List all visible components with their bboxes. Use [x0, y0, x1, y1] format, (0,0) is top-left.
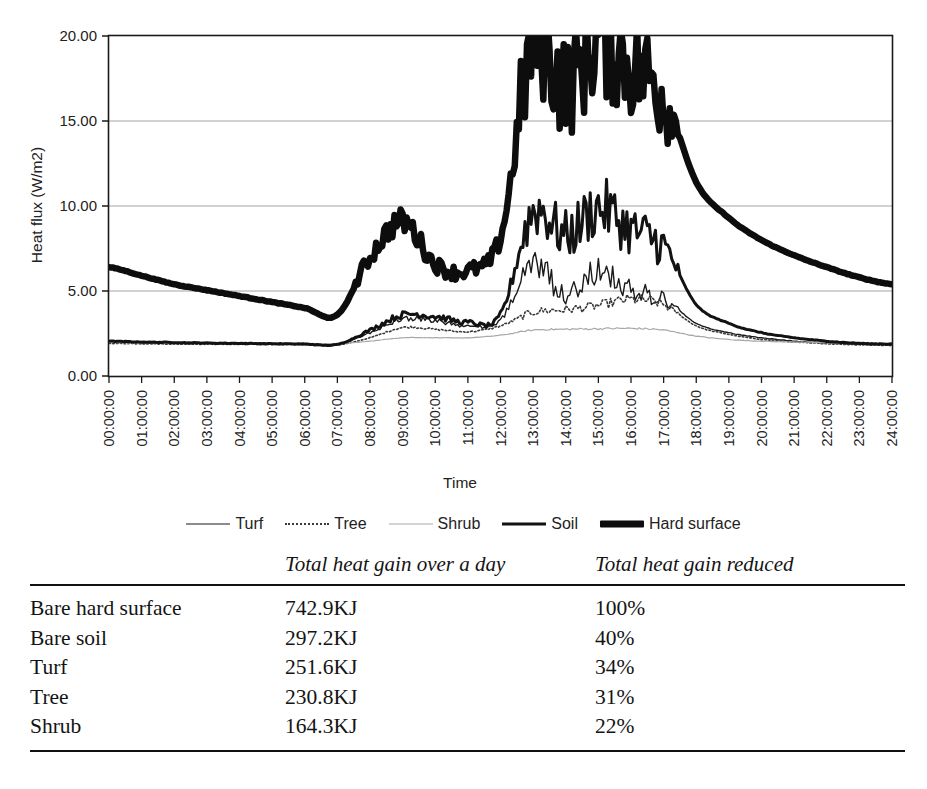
- x-tick-label: 14:00:00: [558, 390, 574, 446]
- table-row: Bare soil297.2KJ40%: [30, 624, 905, 654]
- x-tick-label: 13:00:00: [525, 390, 541, 446]
- table-body: Bare hard surface742.9KJ100%Bare soil297…: [30, 585, 905, 751]
- legend-item-hard-surface: Hard surface: [600, 515, 741, 533]
- x-tick-label: 00:00:00: [101, 390, 117, 446]
- x-tick-label: 17:00:00: [656, 390, 672, 446]
- x-tick-label: 16:00:00: [623, 390, 639, 446]
- legend-item-shrub: Shrub: [389, 515, 481, 533]
- legend-label-hard-surface: Hard surface: [649, 515, 741, 533]
- legend-line-shrub-icon: [389, 517, 433, 531]
- table-row: Shrub164.3KJ22%: [30, 712, 905, 751]
- cell-surface-name: Bare soil: [30, 624, 285, 654]
- cell-surface-name: Shrub: [30, 712, 285, 751]
- legend-label-shrub: Shrub: [438, 515, 481, 533]
- x-tick-label: 21:00:00: [786, 390, 802, 446]
- cell-total-heat-gain-reduced: 100%: [595, 585, 905, 624]
- cell-total-heat-gain-reduced: 34%: [595, 653, 905, 683]
- summary-table-wrapper: Total heat gain over a day Total heat ga…: [30, 552, 905, 752]
- x-tick-label: 19:00:00: [721, 390, 737, 446]
- table-header-total-heat-gain: Total heat gain over a day: [285, 552, 595, 585]
- x-tick-label: 10:00:00: [427, 390, 443, 446]
- table-header-row: Total heat gain over a day Total heat ga…: [30, 552, 905, 585]
- legend-line-soil-icon: [502, 517, 546, 531]
- y-tick-label: 10.00: [59, 197, 97, 214]
- x-tick-label: 04:00:00: [232, 390, 248, 446]
- x-tick-label: 01:00:00: [134, 390, 150, 446]
- heat-flux-line-chart: Heat flux (W/m2) 0.005.0010.0015.0020.00…: [0, 0, 927, 500]
- table-header-total-heat-gain-reduced: Total heat gain reduced: [595, 552, 905, 585]
- cell-total-heat-gain: 742.9KJ: [285, 585, 595, 624]
- legend-label-tree: Tree: [334, 515, 366, 533]
- cell-surface-name: Turf: [30, 653, 285, 683]
- y-tick-label: 15.00: [59, 112, 97, 129]
- x-tick-label: 11:00:00: [460, 390, 476, 445]
- grid-lines: [109, 121, 892, 291]
- x-tick-label: 24:00:00: [884, 390, 900, 446]
- series-line-soil: [109, 179, 892, 345]
- cell-total-heat-gain: 251.6KJ: [285, 653, 595, 683]
- x-tick-label: 22:00:00: [819, 390, 835, 446]
- legend-line-tree-icon: [285, 517, 329, 531]
- cell-total-heat-gain: 164.3KJ: [285, 712, 595, 751]
- chart-area: Heat flux (W/m2) 0.005.0010.0015.0020.00…: [0, 0, 927, 500]
- table-row: Tree230.8KJ31%: [30, 683, 905, 713]
- chart-legend: Turf Tree Shrub Soil Hard surface: [0, 505, 927, 543]
- cell-surface-name: Bare hard surface: [30, 585, 285, 624]
- series-line-tree: [109, 295, 892, 346]
- x-tick-label: 05:00:00: [264, 390, 280, 446]
- x-axis-title: Time: [443, 474, 477, 491]
- legend-line-hard-surface-icon: [600, 517, 644, 531]
- y-tick-label: 20.00: [59, 27, 97, 44]
- x-tick-label: 02:00:00: [166, 390, 182, 446]
- legend-item-soil: Soil: [502, 515, 578, 533]
- cell-total-heat-gain: 230.8KJ: [285, 683, 595, 713]
- x-tick-label: 18:00:00: [688, 390, 704, 446]
- legend-item-turf: Turf: [186, 515, 263, 533]
- series-line-hard-surface: [109, 0, 892, 318]
- legend-item-tree: Tree: [285, 515, 366, 533]
- cell-surface-name: Tree: [30, 683, 285, 713]
- x-tick-label: 09:00:00: [395, 390, 411, 446]
- cell-total-heat-gain-reduced: 40%: [595, 624, 905, 654]
- x-tick-label: 12:00:00: [493, 390, 509, 446]
- cell-total-heat-gain-reduced: 31%: [595, 683, 905, 713]
- legend-line-turf-icon: [186, 517, 230, 531]
- series-line-turf: [109, 253, 892, 346]
- legend-label-turf: Turf: [235, 515, 263, 533]
- x-tick-label: 07:00:00: [329, 390, 345, 446]
- heat-gain-table: Total heat gain over a day Total heat ga…: [30, 552, 905, 752]
- x-tick-label: 03:00:00: [199, 390, 215, 446]
- x-tick-label: 15:00:00: [590, 390, 606, 446]
- table-row: Turf251.6KJ34%: [30, 653, 905, 683]
- x-tick-label: 08:00:00: [362, 390, 378, 446]
- cell-total-heat-gain: 297.2KJ: [285, 624, 595, 654]
- data-series-group: [109, 0, 892, 346]
- x-axis-tick-labels: 00:00:0001:00:0002:00:0003:00:0004:00:00…: [101, 390, 900, 446]
- figure-heat-flux: Heat flux (W/m2) 0.005.0010.0015.0020.00…: [0, 0, 927, 789]
- y-axis-ticks: 0.005.0010.0015.0020.00: [59, 27, 109, 384]
- legend-label-soil: Soil: [551, 515, 578, 533]
- table-row: Bare hard surface742.9KJ100%: [30, 585, 905, 624]
- x-tick-label: 20:00:00: [754, 390, 770, 446]
- x-tick-label: 06:00:00: [297, 390, 313, 446]
- y-tick-label: 0.00: [68, 367, 97, 384]
- y-axis-title: Heat flux (W/m2): [28, 147, 45, 263]
- cell-total-heat-gain-reduced: 22%: [595, 712, 905, 751]
- x-tick-label: 23:00:00: [851, 390, 867, 446]
- table-header-blank: [30, 552, 285, 585]
- y-tick-label: 5.00: [68, 282, 97, 299]
